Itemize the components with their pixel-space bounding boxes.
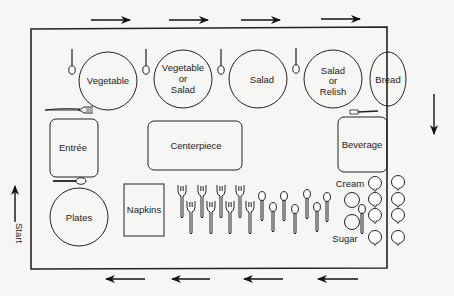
start-label: Start [14,223,25,243]
cream-bowl [345,193,360,208]
spoon-icon [69,49,75,74]
napkins-stack: Napkins [124,184,164,236]
svg-text:Centerpiece: Centerpiece [170,140,221,151]
cream-sugar-station: Cream Sugar [332,178,365,244]
cream-label: Cream [336,178,365,189]
plates-stack: Plates [50,188,108,246]
centerpiece: Centerpiece [148,121,242,170]
sugar-bowl [345,215,360,230]
svg-text:Napkins: Napkins [127,204,162,215]
beverage-dish: Beverage [338,117,387,172]
svg-text:Relish: Relish [320,86,346,97]
buffet-layout-diagram: Start Vegetable Vegetable or Salad Salad… [0,0,454,296]
salad-or-relish-dish: Salad or Relish [304,50,362,108]
svg-text:Vegetable: Vegetable [87,75,129,86]
svg-text:or: or [329,75,337,86]
vegetable-dish: Vegetable [79,52,137,110]
spoon-icon [218,49,224,74]
fork-icon [45,107,93,113]
svg-text:Plates: Plates [66,212,93,223]
top-flow-arrows [91,19,360,20]
spoons-group [259,190,331,234]
svg-text:Entrée: Entrée [59,142,87,153]
entree-dish: Entrée [50,119,98,177]
bread-dish: Bread [370,52,406,106]
svg-text:Salad: Salad [171,84,195,95]
vegetable-or-salad-dish: Vegetable or Salad [154,50,212,108]
svg-text:Bread: Bread [375,74,400,85]
svg-text:Salad: Salad [250,74,274,85]
spoon-icon [143,49,149,74]
svg-text:Vegetable: Vegetable [162,62,204,73]
svg-text:Beverage: Beverage [342,139,383,150]
spoon-icon [359,205,366,234]
salad-dish: Salad [229,50,287,108]
spoon-icon [293,48,299,73]
svg-text:or: or [179,73,187,84]
forks-group [178,185,254,234]
spoon-icon [53,178,86,185]
fork-icon [350,110,378,114]
sugar-label: Sugar [332,233,357,244]
